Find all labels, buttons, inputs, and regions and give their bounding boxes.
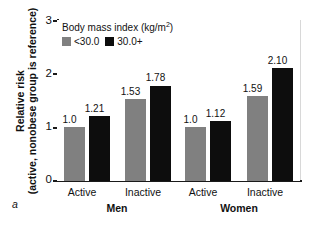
x-tick-women-inactive: Inactive — [230, 186, 300, 198]
bar-value-women-active-gte30: 1.12 — [200, 108, 231, 119]
bar-value-men-inactive-lt30: 1.53 — [115, 86, 146, 97]
legend-title: Body mass index (kg/m2) — [62, 21, 202, 33]
legend-title-main: Body mass index (kg/m — [62, 22, 166, 33]
bar-value-women-inactive-gte30: 2.10 — [262, 55, 293, 66]
legend-label-gte30: 30.0+ — [117, 36, 142, 47]
bar-value-men-active-lt30: 1.0 — [54, 114, 85, 125]
y-tick-label-3: 3 — [36, 14, 52, 26]
bar-women-active-gte30[interactable] — [210, 121, 231, 181]
plot-frame-right — [300, 20, 301, 181]
x-tick-men-active: Active — [47, 186, 117, 198]
y-tick-label-0: 0 — [36, 173, 52, 185]
y-tick-label-2: 2 — [36, 67, 52, 79]
legend-label-lt30: <30.0 — [74, 36, 99, 47]
bar-value-men-active-gte30: 1.21 — [79, 103, 110, 114]
y-axis-label-line1: Relative risk — [13, 70, 25, 132]
group-label-women: Women — [204, 202, 274, 214]
bar-men-active-gte30[interactable] — [89, 116, 110, 181]
bar-women-inactive-gte30[interactable] — [272, 68, 293, 181]
y-axis-label-line2: (active, nonobese group is reference) — [26, 8, 38, 195]
bar-women-inactive-lt30[interactable] — [247, 96, 268, 181]
y-axis-label: Relative risk (active, nonobese group is… — [0, 0, 40, 190]
legend-swatch-gray-icon — [62, 37, 71, 46]
legend-entry-lt30[interactable]: <30.0 — [62, 36, 99, 47]
bar-value-men-inactive-gte30: 1.78 — [140, 72, 171, 83]
bar-value-women-inactive-lt30: 1.59 — [237, 83, 268, 94]
legend-title-end: ) — [170, 22, 173, 33]
bar-men-active-lt30[interactable] — [64, 127, 85, 181]
bar-women-active-lt30[interactable] — [185, 127, 206, 181]
panel-letter: a — [12, 198, 18, 210]
legend: Body mass index (kg/m2) <30.0 30.0+ — [62, 21, 202, 47]
group-label-men: Men — [82, 202, 152, 214]
legend-entry-gte30[interactable]: 30.0+ — [105, 36, 142, 47]
x-tick-women-active: Active — [168, 186, 238, 198]
y-tick-label-1: 1 — [36, 120, 52, 132]
bar-men-inactive-gte30[interactable] — [150, 86, 171, 182]
bar-men-inactive-lt30[interactable] — [125, 99, 146, 181]
figure-panel-a: Relative risk (active, nonobese group is… — [0, 0, 310, 230]
legend-swatch-black-icon — [105, 37, 114, 46]
